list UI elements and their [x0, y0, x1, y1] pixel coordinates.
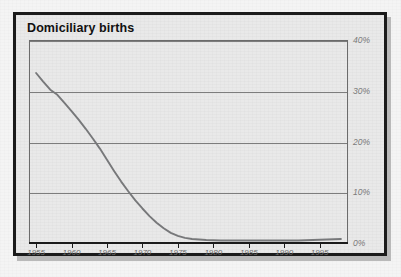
x-tick-label-1985: 1985 — [240, 248, 258, 257]
page-background: Domiciliary births 195519601965197019751… — [0, 0, 401, 277]
chart-figure-panel: Domiciliary births 195519601965197019751… — [13, 12, 387, 256]
y-tick-label-40%: 40% — [353, 35, 370, 45]
y-tick-label-30%: 30% — [353, 86, 370, 96]
x-tick-label-1965: 1965 — [98, 248, 116, 257]
x-tick-label-1980: 1980 — [204, 248, 222, 257]
y-tick-label-0%: 0% — [353, 238, 365, 248]
x-tick-label-1955: 1955 — [27, 248, 45, 257]
x-tick-label-1960: 1960 — [63, 248, 81, 257]
x-tick-label-1975: 1975 — [169, 248, 187, 257]
x-axis-line — [29, 242, 348, 244]
x-tick-label-1990: 1990 — [275, 248, 293, 257]
y-tick-label-20%: 20% — [353, 137, 370, 147]
data-series-line — [29, 40, 348, 244]
x-tick-label-1970: 1970 — [133, 248, 151, 257]
x-tick-label-1995: 1995 — [311, 248, 329, 257]
chart-title: Domiciliary births — [27, 21, 134, 35]
y-tick-label-10%: 10% — [353, 187, 370, 197]
